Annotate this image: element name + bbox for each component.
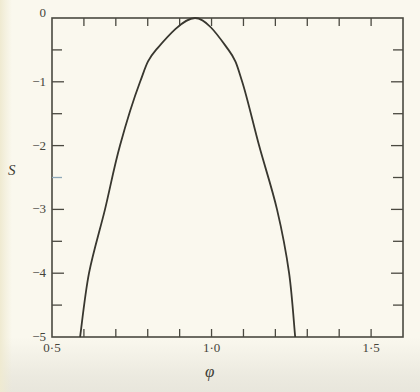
plot-frame <box>52 18 403 337</box>
y-tick-label: −2 <box>32 138 46 153</box>
y-tick-label: 0 <box>40 5 47 20</box>
x-axis-title: φ <box>205 363 214 380</box>
y-tick-label: −3 <box>32 201 46 216</box>
plot-canvas: 0·51·01·50−1−2−3−4−5 <box>0 0 420 392</box>
y-tick-label: −5 <box>32 329 46 344</box>
y-tick-label: −1 <box>32 74 46 89</box>
curve-s-phi <box>80 18 295 337</box>
y-tick-label: −4 <box>32 265 46 280</box>
scanned-figure-page: 0·51·01·50−1−2−3−4−5 S φ <box>0 0 420 392</box>
x-tick-label: 1·0 <box>203 340 220 355</box>
y-axis-title: S <box>8 163 16 178</box>
x-tick-label: 1·5 <box>362 340 379 355</box>
